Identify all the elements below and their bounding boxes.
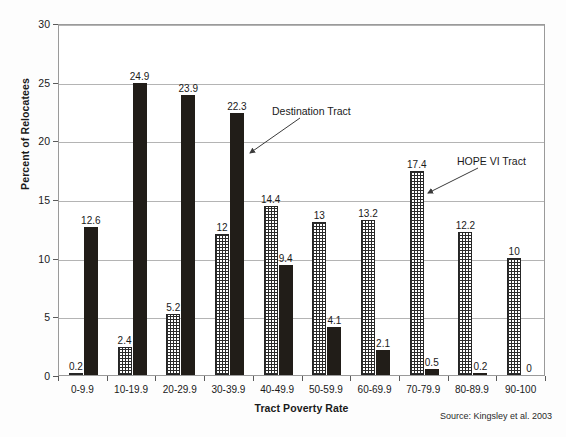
bar-value-label: 14.4 [257, 195, 285, 205]
bar-value-label: 23.9 [174, 84, 202, 94]
annotation-hope-vi-tract: HOPE VI Tract [457, 155, 526, 167]
bar-value-label: 13.2 [354, 209, 382, 219]
x-tick-mark [545, 376, 546, 381]
bar-value-label: 10 [500, 247, 528, 257]
bar-value-label: 13 [305, 211, 333, 221]
bar-value-label: 9.4 [272, 254, 300, 264]
x-tick-mark [58, 376, 59, 381]
x-tick-mark [448, 376, 449, 381]
x-tick-mark [350, 376, 351, 381]
bar-destination-tract [84, 227, 98, 375]
y-tick-label: 25 [26, 78, 50, 88]
bar-destination-tract [376, 350, 390, 375]
source-note: Source: Kingsley et al. 2003 [440, 411, 552, 421]
bar-destination-tract [181, 95, 195, 375]
bar-destination-tract [425, 369, 439, 375]
bar-value-label: 12.6 [77, 216, 105, 226]
y-tick-label: 5 [26, 312, 50, 322]
gridline [59, 25, 544, 26]
bar-hope-vi-tract [166, 314, 180, 375]
bar-hope-vi-tract [361, 220, 375, 375]
x-tick-label: 90-100 [491, 384, 551, 395]
x-tick-mark [155, 376, 156, 381]
bar-value-label: 2.1 [369, 339, 397, 349]
bar-value-label: 22.3 [223, 102, 251, 112]
annotation-destination-tract: Destination Tract [272, 105, 351, 117]
y-tick-label: 10 [26, 254, 50, 264]
chart-figure: Percent of Relocatees 051015202530 0.212… [0, 0, 566, 437]
bar-destination-tract [279, 265, 293, 375]
y-tick-label: 20 [26, 136, 50, 146]
bar-destination-tract [327, 327, 341, 375]
bar-value-label: 0.5 [418, 358, 446, 368]
bar-value-label: 0 [515, 364, 543, 374]
y-tick-label: 0 [26, 371, 50, 381]
bar-value-label: 0.2 [466, 362, 494, 372]
bar-hope-vi-tract [458, 232, 472, 375]
x-tick-mark [399, 376, 400, 381]
bar-hope-vi-tract [264, 206, 278, 375]
bar-hope-vi-tract [69, 373, 83, 375]
bar-hope-vi-tract [507, 258, 521, 375]
bar-value-label: 17.4 [403, 160, 431, 170]
bar-destination-tract [230, 113, 244, 375]
x-tick-mark [253, 376, 254, 381]
bar-value-label: 12.2 [451, 221, 479, 231]
x-tick-mark [496, 376, 497, 381]
x-tick-mark [107, 376, 108, 381]
bar-hope-vi-tract [410, 171, 424, 375]
bar-destination-tract [133, 83, 147, 375]
x-tick-mark [302, 376, 303, 381]
y-tick-label: 15 [26, 195, 50, 205]
x-tick-mark [204, 376, 205, 381]
bar-value-label: 24.9 [126, 72, 154, 82]
bar-hope-vi-tract [118, 347, 132, 375]
bar-hope-vi-tract [312, 222, 326, 375]
y-tick-label: 30 [26, 19, 50, 29]
bar-hope-vi-tract [215, 234, 229, 375]
bar-destination-tract [473, 373, 487, 375]
bar-value-label: 4.1 [320, 316, 348, 326]
plot-area: 0.212.62.424.95.223.91222.314.49.4134.11… [58, 24, 545, 376]
